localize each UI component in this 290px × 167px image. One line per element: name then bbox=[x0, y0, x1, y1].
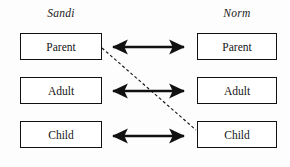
column-header-sandi: Sandi bbox=[20, 7, 102, 19]
ego-state-box-norm-parent[interactable]: Parent bbox=[197, 33, 277, 60]
column-header-norm: Norm bbox=[197, 7, 277, 19]
ego-state-box-sandi-adult[interactable]: Adult bbox=[20, 77, 102, 104]
ego-state-box-norm-adult[interactable]: Adult bbox=[197, 77, 277, 104]
transaction-diagram: Sandi Norm Parent Adult Child Parent Adu… bbox=[0, 0, 290, 167]
dashed-line-parent-to-child bbox=[102, 48, 196, 130]
ego-state-box-norm-child[interactable]: Child bbox=[197, 121, 277, 148]
ego-state-box-sandi-parent[interactable]: Parent bbox=[20, 33, 102, 60]
ego-state-box-sandi-child[interactable]: Child bbox=[20, 121, 102, 148]
